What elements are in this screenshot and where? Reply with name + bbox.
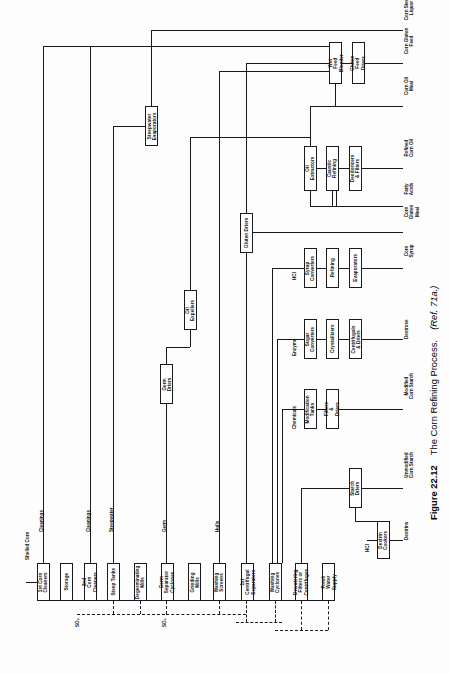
line-oilextr-caustic <box>317 168 326 169</box>
product-label-dextrose: Dextrose <box>404 319 409 339</box>
stream-label-so2-b: SO₂ <box>162 618 167 627</box>
node-caustic-refining: CausticRefining <box>326 146 339 191</box>
node-fresh-water-supply: Fresh WaterSupply <box>322 563 335 601</box>
stream-label-hcl-dextrin: HCl <box>365 544 370 552</box>
node-dextrin-cookers: DextrinCookers <box>377 521 390 559</box>
line-shelled-corn <box>26 582 37 583</box>
node-dewatering-filters-centrifuges: DewateringFilters orCentrifuges <box>295 563 308 601</box>
line-steepwater-evap-out <box>151 30 152 106</box>
node-label: GermDriers <box>161 377 172 391</box>
dash-water-dewater <box>301 601 302 630</box>
stream-label-steepwater: Steepwater <box>109 507 114 532</box>
node-modification-tanks: ModificationTanks <box>304 389 317 429</box>
node-refining: Refining <box>326 248 339 288</box>
stream-label-germ: Germ <box>162 520 167 532</box>
stream-label-cleanings-2: Cleanings <box>86 510 91 532</box>
node-label: GrindingMills <box>189 572 200 592</box>
line-gluten-to-blender-h <box>246 63 335 64</box>
line-refined-corn-oil-out <box>362 168 403 169</box>
node-oil-expellers: OilExpellers <box>184 290 197 330</box>
dash-so2-washscreens <box>219 601 220 614</box>
stream-label-hulls: Hulls <box>215 521 220 532</box>
node-syrup-converters: SyrupConverters <box>304 248 317 288</box>
node-degerminating-mills: DegerminatingMills <box>134 563 147 601</box>
node-label: Steep Tanks <box>111 568 116 596</box>
node-label: Storage <box>64 573 69 591</box>
line-hcl-dextrin <box>367 540 377 541</box>
node-germ-separator-cyclones: Germ SeparatorCyclones <box>161 563 174 601</box>
line-dextrose-out <box>362 339 403 340</box>
node-evaporators: Evaporators <box>349 248 362 288</box>
dash-so2-run-b <box>166 614 246 615</box>
node-label: 1st CentrifugalSeparators <box>239 569 255 594</box>
node-centrifugals-driers: Centrifugals& Driers <box>349 319 362 359</box>
product-label-modified-corn-starch: ModifiedCorn Starch <box>404 363 415 409</box>
line-cleanings-2 <box>90 46 91 563</box>
figure-caption: Figure 22.12 The Corn Refining Process. … <box>428 286 439 520</box>
line-syrup-refining <box>317 268 326 269</box>
line-steepwater <box>113 126 114 563</box>
line-cryst-centr <box>339 339 349 340</box>
node-label: 2nd CornCleaners <box>82 572 98 592</box>
line-blender-to-gfdriers <box>341 63 353 64</box>
node-label: DextrinCookers <box>378 530 389 549</box>
line-corn-gluten-feed-out <box>365 63 403 64</box>
line-hulls-to-blender <box>219 71 335 72</box>
line-washcyc-bus-v <box>272 268 273 563</box>
node-label: Germ SeparatorCyclones <box>159 571 175 593</box>
dash-so2-run-a <box>77 614 165 615</box>
node-label: StarchDriers <box>350 481 361 496</box>
stream-label-chemicals: Chemicals <box>292 406 297 429</box>
dash-so2-centsep <box>246 601 247 622</box>
line-dewater-up <box>301 488 302 563</box>
node-gluten-feed-driers: Gluten FeedDriers <box>352 42 365 84</box>
node-deodorizers-filters: Deodorizers& Filters <box>349 146 362 191</box>
stream-label-so2-a: SO₂ <box>75 618 80 627</box>
dash-so2-steep <box>113 601 114 614</box>
node-label: DewateringFilters orCentrifuges <box>293 569 309 596</box>
line-starchdriers-down <box>355 508 356 521</box>
line-bus-b-v <box>277 339 278 563</box>
node-label: Centrifugals& Driers <box>350 325 361 353</box>
line-deod-fatty <box>336 191 337 206</box>
node-label: Refining <box>330 258 335 277</box>
node-label: ModificationTanks <box>305 395 316 423</box>
node-label: Gluten Driers <box>244 218 249 248</box>
line-corn-oil-meal <box>310 106 403 107</box>
figure-canvas: 1st CornCleaners Storage 2nd CornCleaner… <box>0 0 450 674</box>
node-label: OilExtractors <box>305 157 316 181</box>
dash-water-run-2 <box>275 630 328 631</box>
line-fatty-acids-out <box>310 206 403 207</box>
node-grinding-mills: GrindingMills <box>188 563 201 601</box>
node-gluten-driers: Gluten Driers <box>240 213 253 253</box>
line-germdriers-out <box>166 347 167 364</box>
line-blender-down <box>335 84 336 106</box>
node-sugar-converters: SugarConverters <box>304 319 317 359</box>
line-hcl-syrup <box>294 268 304 269</box>
product-label-unmodified-corn-starch: UnmodifiedCorn Starch <box>404 442 415 488</box>
line-dextrins-out <box>390 540 403 541</box>
node-label: SteepwaterEvaporators <box>146 112 157 140</box>
node-crystallizers: Crystallizers <box>326 319 339 359</box>
line-unmodified-starch-out <box>362 488 403 489</box>
line-cleanings-rail <box>43 46 335 47</box>
line-modif-filters <box>317 409 326 410</box>
line-oilexp-out-h <box>190 137 310 138</box>
line-gluten-to-blender-v <box>246 63 247 213</box>
line-modified-starch-out <box>339 409 403 410</box>
dash-so2-germsep <box>166 601 167 614</box>
node-starch-driers: StarchDriers <box>349 468 362 508</box>
node-germ-driers: GermDriers <box>160 364 173 404</box>
stream-label-hcl-syrup: HCl <box>292 272 297 280</box>
line-caustic-deod <box>339 168 349 169</box>
node-filters-driers: Filters& Driers <box>326 389 339 429</box>
line-caustic-fatty <box>332 191 333 206</box>
line-to-starch-driers <box>323 488 349 489</box>
product-label-corn-oil-meal: Corn OilMeal <box>404 66 415 106</box>
dash-water-fresh <box>328 601 329 630</box>
line-to-oil-expellers <box>166 347 190 348</box>
product-label-dextrins: Dextrins <box>404 522 409 540</box>
line-corn-steep-liquor-out <box>335 30 403 31</box>
line-corn-steep-liquor-rail <box>151 30 335 31</box>
stream-label-shelled-corn: Shelled Corn <box>25 532 30 560</box>
